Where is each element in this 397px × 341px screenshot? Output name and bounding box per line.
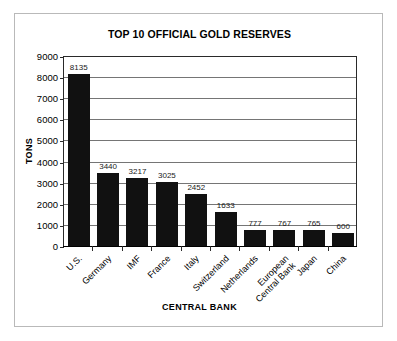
bar[interactable] (97, 173, 119, 246)
bar-slot: 3217 (123, 56, 152, 246)
x-category-label: Germany (81, 254, 114, 287)
bar[interactable] (68, 74, 90, 246)
bar-slot: 767 (270, 56, 299, 246)
x-category-label: France (146, 254, 173, 281)
x-tick-mark (269, 246, 270, 251)
bar-slot: 8135 (64, 56, 93, 246)
x-category-label: Italy (183, 254, 202, 273)
bar-slot: 1633 (211, 56, 240, 246)
y-tick-label: 6000 (37, 116, 58, 126)
y-axis-title-text: TONS (24, 138, 34, 164)
x-tick-mark (181, 246, 182, 251)
y-tick-label: 8000 (37, 73, 58, 83)
x-tick-mark (298, 246, 299, 251)
plot-area: 0100020003000400050006000700080009000 81… (63, 56, 357, 246)
bar-value-label: 2452 (187, 184, 205, 192)
bar[interactable] (215, 212, 237, 246)
x-tick-mark (239, 246, 240, 251)
x-tick-mark (122, 246, 123, 251)
bar-value-label: 767 (278, 220, 291, 228)
bar-series: 813534403217302524521633777767765600 (64, 56, 356, 246)
bar-value-label: 3217 (129, 168, 147, 176)
x-category-label-line: Germany (81, 254, 114, 287)
bar-value-label: 777 (248, 220, 261, 228)
bar[interactable] (332, 233, 354, 246)
bar-slot: 3440 (93, 56, 122, 246)
chart-frame: TOP 10 OFFICIAL GOLD RESERVES TONS 01000… (14, 13, 383, 327)
y-tick-label: 9000 (37, 52, 58, 62)
y-tick-label: 2000 (37, 200, 58, 210)
bar-value-label: 765 (307, 220, 320, 228)
bar-value-label: 8135 (70, 64, 88, 72)
x-category-label: IMF (125, 254, 143, 272)
x-category-label-line: U.S. (65, 254, 84, 273)
bar[interactable] (303, 230, 325, 246)
bar-slot: 777 (240, 56, 269, 246)
bar[interactable] (185, 194, 207, 246)
x-category-label: China (325, 254, 349, 278)
x-category-label: U.S. (65, 254, 84, 273)
y-tick-label: 4000 (37, 158, 58, 168)
bar-slot: 2452 (182, 56, 211, 246)
bar[interactable] (244, 230, 266, 246)
bar-slot: 600 (329, 56, 358, 246)
x-category-label-line: Italy (183, 254, 202, 273)
y-tick-label: 3000 (37, 179, 58, 189)
x-category-label-line: France (146, 254, 173, 281)
x-category-label-line: IMF (125, 254, 143, 272)
bar[interactable] (273, 230, 295, 246)
bar-value-label: 3025 (158, 172, 176, 180)
y-axis-title: TONS (21, 56, 37, 246)
bar-slot: 765 (299, 56, 328, 246)
y-tick-label: 5000 (37, 137, 58, 147)
chart-title: TOP 10 OFFICIAL GOLD RESERVES (15, 28, 384, 40)
y-tick-label: 1000 (37, 221, 58, 231)
y-tick-label: 0 (53, 242, 58, 252)
bar-value-label: 1633 (217, 202, 235, 210)
bar-value-label: 600 (337, 223, 350, 231)
x-category-label: Japan (295, 254, 319, 278)
x-category-label-line: Japan (295, 254, 319, 278)
x-axis-title: CENTRAL BANK (15, 302, 384, 312)
y-tick-mark (60, 247, 64, 248)
bar-value-label: 3440 (99, 163, 117, 171)
x-tick-mark (328, 246, 329, 251)
x-tick-mark (151, 246, 152, 251)
bar[interactable] (126, 178, 148, 246)
bar-slot: 3025 (152, 56, 181, 246)
bar[interactable] (156, 182, 178, 246)
x-tick-mark (210, 246, 211, 251)
y-tick-label: 7000 (37, 94, 58, 104)
x-category-label-line: China (325, 254, 349, 278)
x-tick-mark (92, 246, 93, 251)
